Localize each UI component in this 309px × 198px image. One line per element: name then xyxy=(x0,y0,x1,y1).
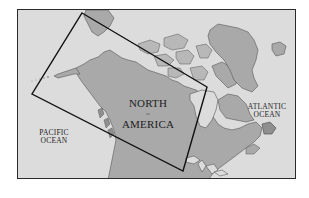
ocean-label-pacific: PACIFIC OCEAN xyxy=(37,129,71,145)
continent-label-north-america: NORTH ~ AMERICA xyxy=(118,98,178,130)
continent-label-line1: NORTH xyxy=(118,98,178,110)
pacific-label-line2: OCEAN xyxy=(37,137,71,145)
map-frame: NORTH ~ AMERICA PACIFIC OCEAN ATLANTIC O… xyxy=(17,9,296,179)
atlantic-label-line2: OCEAN xyxy=(246,111,288,119)
north-america-map xyxy=(18,10,296,179)
ocean-label-atlantic: ATLANTIC OCEAN xyxy=(246,103,288,119)
compass-glyph: ~ xyxy=(118,111,178,118)
continent-label-line2: AMERICA xyxy=(118,119,178,131)
